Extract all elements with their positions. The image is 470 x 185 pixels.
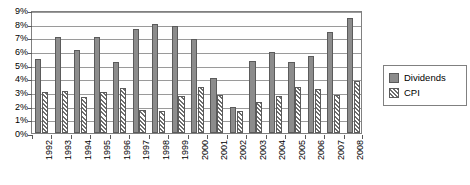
bar-dividends (288, 62, 294, 133)
legend-item-cpi: CPI (389, 85, 461, 100)
x-tick-label: 2003 (259, 140, 268, 160)
x-tick-label: 2005 (298, 140, 307, 160)
bar-dividends (347, 18, 353, 133)
y-tick-label: 4% (15, 75, 28, 84)
x-tick-label: 2007 (337, 140, 346, 160)
bar-dividends (152, 24, 158, 133)
bar-cpi (256, 102, 262, 133)
bar-cpi (178, 96, 184, 133)
bar-dividends (327, 32, 333, 133)
bar-cpi (81, 97, 87, 133)
y-tick-label: 5% (15, 62, 28, 71)
bar-dividends (113, 62, 119, 133)
y-axis-labels: 0%1%2%3%4%5%6%7%8%9% (0, 0, 30, 185)
x-tick-label: 2008 (356, 140, 365, 160)
legend-label-dividends: Dividends (404, 73, 446, 83)
x-tick-label: 1998 (162, 140, 171, 160)
bar-dividends (55, 37, 61, 133)
bar-cpi (198, 87, 204, 133)
y-tick-label: 7% (15, 34, 28, 43)
bar-cpi (237, 111, 243, 133)
bar-chart: 0%1%2%3%4%5%6%7%8%9% 1992199319941995199… (0, 0, 470, 185)
bar-cpi (334, 95, 340, 133)
y-tick-label: 3% (15, 89, 28, 98)
bar-cpi (42, 92, 48, 133)
bar-cpi (120, 88, 126, 133)
x-tick-label: 1994 (84, 140, 93, 160)
x-tick-label: 2000 (201, 140, 210, 160)
x-tick-mark (362, 135, 363, 139)
plot-area (31, 11, 362, 134)
x-tick-label: 1992 (45, 140, 54, 160)
x-tick-label: 1997 (142, 140, 151, 160)
y-tick-label: 2% (15, 103, 28, 112)
x-axis-labels: 1992199319941995199619971998199920002001… (31, 134, 362, 185)
y-tick-label: 0% (15, 130, 28, 139)
bar-dividends (249, 61, 255, 133)
bar-cpi (100, 92, 106, 133)
bar-cpi (62, 91, 68, 133)
bar-dividends (191, 39, 197, 133)
bar-dividends (172, 26, 178, 133)
bar-dividends (35, 59, 41, 133)
x-tick-label: 1996 (123, 140, 132, 160)
bar-cpi (217, 95, 223, 133)
bar-dividends (133, 29, 139, 133)
x-tick-label: 2004 (278, 140, 287, 160)
bar-dividends (230, 107, 236, 133)
y-tick-label: 9% (15, 7, 28, 16)
bar-cpi (139, 110, 145, 133)
bar-dividends (308, 56, 314, 133)
legend-item-dividends: Dividends (389, 70, 461, 85)
chart-legend: Dividends CPI (383, 65, 467, 106)
bar-cpi (295, 87, 301, 133)
bar-dividends (269, 52, 275, 133)
dividends-swatch-icon (389, 73, 399, 83)
y-tick-label: 8% (15, 21, 28, 30)
bar-dividends (74, 50, 80, 133)
bar-cpi (159, 111, 165, 133)
x-tick-label: 2002 (239, 140, 248, 160)
x-tick-label: 2006 (317, 140, 326, 160)
bar-cpi (315, 89, 321, 133)
x-tick-label: 1999 (181, 140, 190, 160)
cpi-swatch-icon (389, 88, 399, 98)
y-tick-label: 1% (15, 116, 28, 125)
x-tick-label: 1993 (64, 140, 73, 160)
bar-dividends (210, 78, 216, 133)
y-tick-label: 6% (15, 48, 28, 57)
bars-layer (32, 12, 361, 133)
bar-cpi (276, 96, 282, 133)
legend-label-cpi: CPI (404, 88, 420, 98)
bar-dividends (94, 37, 100, 133)
x-tick-label: 1995 (103, 140, 112, 160)
bar-cpi (354, 81, 360, 133)
x-tick-label: 2001 (220, 140, 229, 160)
